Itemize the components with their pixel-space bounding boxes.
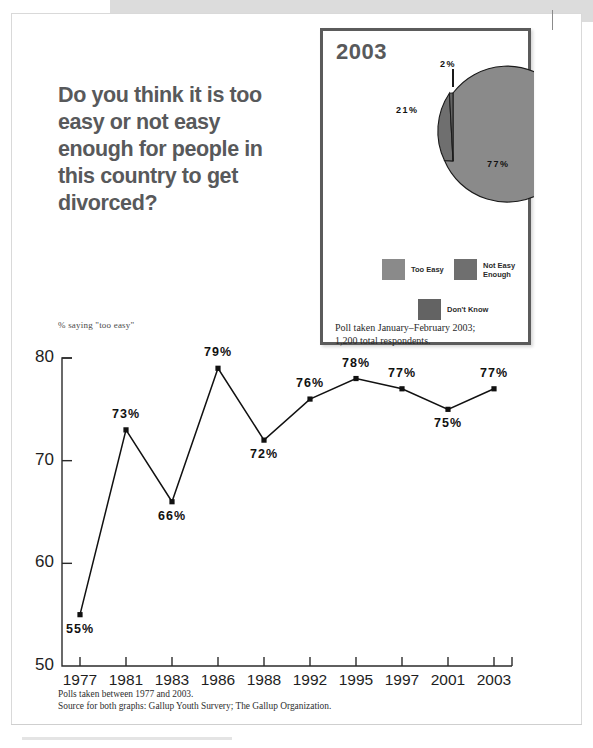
legend-item-not-easy-enough: Not Easy Enough	[454, 259, 515, 280]
data-point-marker	[215, 366, 220, 371]
data-point-value-label: 66%	[148, 509, 196, 523]
data-point-marker	[261, 438, 266, 443]
line-chart-caption: % saying "too easy"	[58, 320, 134, 330]
data-point-marker	[491, 386, 496, 391]
x-axis-tick-label: 1986	[195, 671, 241, 689]
footnote-line-1: Polls taken between 1977 and 2003.	[58, 689, 193, 699]
data-point-marker	[169, 499, 174, 504]
line-series-too-easy	[80, 368, 494, 614]
pie-label-dont-know: 2%	[440, 59, 456, 69]
pie-panel-connector-line	[552, 10, 553, 30]
data-point-marker	[445, 407, 450, 412]
pie-chart-stage: 2% 21% 77%	[323, 31, 528, 342]
data-point-value-label: 72%	[240, 447, 288, 461]
sheet-bottom-rule	[11, 724, 582, 725]
legend-label-not-easy-enough: Not Easy Enough	[483, 261, 515, 279]
legend-label-too-easy: Too Easy	[411, 265, 444, 274]
data-point-value-label: 73%	[102, 407, 150, 421]
data-point-value-label: 75%	[424, 416, 472, 430]
y-axis-tick-label: 80	[14, 347, 54, 367]
data-point-marker	[353, 376, 358, 381]
legend-swatch-too-easy	[382, 259, 405, 280]
pie-leader-line-dont-know	[452, 69, 454, 87]
y-axis-tick-label: 50	[14, 655, 54, 675]
x-axis-tick-label: 2003	[471, 671, 517, 689]
data-point-value-label: 77%	[470, 366, 518, 380]
x-axis-tick-label: 1992	[287, 671, 333, 689]
data-point-marker	[123, 427, 128, 432]
x-axis-tick-label: 1988	[241, 671, 287, 689]
data-point-value-label: 77%	[378, 366, 426, 380]
data-point-value-label: 76%	[286, 376, 334, 390]
x-axis-tick-label: 1983	[149, 671, 195, 689]
legend-item-dont-know: Don't Know	[418, 299, 488, 320]
x-axis-tick-label: 1977	[57, 671, 103, 689]
x-axis-tick-label: 1995	[333, 671, 379, 689]
legend-item-too-easy: Too Easy	[382, 259, 444, 280]
pie-label-too-easy: 77%	[487, 159, 510, 169]
x-axis-tick-label: 2001	[425, 671, 471, 689]
data-point-value-label: 78%	[332, 356, 380, 370]
data-point-value-label: 55%	[56, 622, 104, 636]
y-axis-tick-label: 60	[14, 552, 54, 572]
data-point-marker	[307, 396, 312, 401]
poll-note-text: Poll taken January–February 2003; 1,200 …	[335, 322, 525, 347]
legend-swatch-dont-know	[418, 299, 441, 320]
poll-question-headline: Do you think it is too easy or not easy …	[58, 82, 273, 217]
chart-footnotes: Polls taken between 1977 and 2003.Source…	[58, 688, 488, 712]
legend-swatch-not-easy-enough	[454, 259, 477, 280]
y-axis-tick-label: 70	[14, 450, 54, 470]
chart-axes	[62, 358, 512, 666]
legend-label-dont-know: Don't Know	[447, 305, 488, 314]
page-root: Do you think it is too easy or not easy …	[0, 0, 593, 748]
pie-chart-panel: 2003 2% 21% 77% Too Easy Not Eas	[320, 28, 531, 345]
line-chart-area: 50607080 1977198119831986198819921995199…	[20, 348, 520, 683]
footer-band	[22, 737, 232, 740]
data-point-marker	[399, 386, 404, 391]
pie-label-not-easy-enough: 21%	[396, 105, 419, 115]
footnote-line-2: Source for both graphs: Gallup Youth Sur…	[58, 701, 331, 711]
data-point-value-label: 79%	[194, 345, 242, 359]
pie-slice-too-easy	[445, 66, 535, 202]
x-axis-tick-label: 1997	[379, 671, 425, 689]
x-axis-tick-label: 1981	[103, 671, 149, 689]
pie-chart-svg	[323, 31, 534, 261]
data-point-marker	[77, 612, 82, 617]
